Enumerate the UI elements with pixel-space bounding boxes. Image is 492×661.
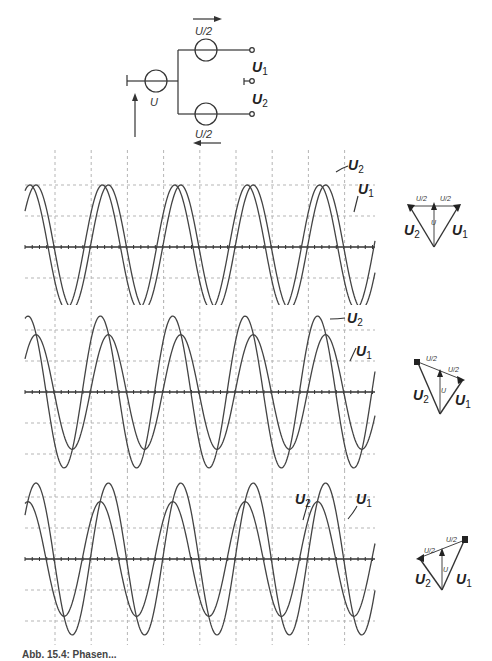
phasor-diagram-2: U/2 U/2 U U2 U1 [400,340,492,420]
phasor2-u1: U1 [455,392,471,410]
panel2-u2-label: U2 [347,310,363,328]
trace-labels: U2 U1 U2 U1 U2 U1 [0,0,400,661]
panel1-u2-label: U2 [348,157,364,175]
panel3-u1-label: U1 [356,491,372,509]
phasor1-u: U [431,219,437,226]
phasor3-u1: U1 [456,571,472,589]
phasor3-u: U [443,566,449,573]
phasor1-u1: U1 [452,222,468,240]
phasor2-u2: U2 [413,387,429,405]
phasor-diagram-3: U/2 U/2 U U2 U1 [400,510,492,600]
phasor2-half-left: U/2 [426,355,437,362]
panel3-u2-label: U2 [295,491,311,509]
phasor2-half-right: U/2 [448,366,459,373]
phasor1-half-right: U/2 [440,195,451,202]
phasor1-u2: U2 [404,222,420,240]
phasor-diagram-1: U/2 U/2 U U2 U1 [400,180,492,260]
phasor3-u2: U2 [415,571,431,589]
figure-caption: Abb. 15.4: Phasen... [22,649,116,660]
panel2-u1-label: U1 [356,343,372,361]
phasor2-u: U [441,387,447,394]
phasor3-half-left: U/2 [424,547,435,554]
phasor3-half-right: U/2 [446,536,457,543]
phasor1-half-left: U/2 [416,195,427,202]
panel1-u1-label: U1 [358,181,374,199]
